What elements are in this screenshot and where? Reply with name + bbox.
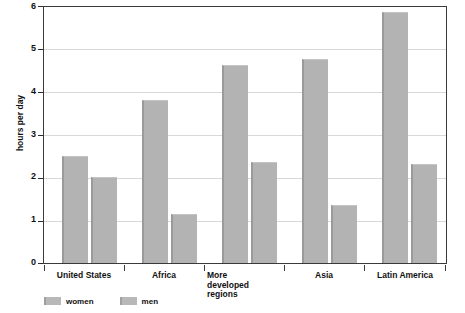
legend: women men bbox=[44, 295, 158, 307]
y-tick-label-4: 4 bbox=[22, 87, 36, 96]
y-tick-label-2: 2 bbox=[22, 172, 36, 181]
x-axis-label-asia: Asia bbox=[284, 271, 364, 281]
legend-item-women: women bbox=[44, 297, 94, 306]
y-axis-tick-labels: 6 5 4 3 2 1 0 bbox=[16, 0, 36, 313]
x-axis-label-latin-america: Latin America bbox=[364, 271, 446, 281]
bar-women-africa bbox=[142, 100, 168, 263]
legend-label-women: women bbox=[66, 297, 94, 306]
bar-men-more-developed-regions bbox=[251, 162, 277, 263]
x-axis-label-more-developed-regions: More developed regions bbox=[207, 271, 287, 300]
bar-women-asia bbox=[302, 59, 328, 263]
bar-men-asia bbox=[331, 205, 357, 263]
legend-swatch-women-icon bbox=[44, 297, 61, 305]
plot-area bbox=[43, 6, 447, 264]
bar-men-united-states bbox=[91, 177, 117, 263]
y-tick-label-6: 6 bbox=[22, 2, 36, 11]
x-axis-label-africa: Africa bbox=[124, 271, 204, 281]
bar-men-latin-america bbox=[411, 164, 437, 263]
bar-women-united-states bbox=[62, 156, 88, 263]
legend-swatch-men-icon bbox=[120, 297, 137, 305]
legend-item-men: men bbox=[120, 297, 158, 306]
x-axis-label-united-states: United States bbox=[44, 271, 124, 281]
y-tick-label-0: 0 bbox=[22, 258, 36, 267]
y-tick-label-1: 1 bbox=[22, 215, 36, 224]
bar-men-africa bbox=[171, 214, 197, 263]
y-tick-label-3: 3 bbox=[22, 130, 36, 139]
bar-women-latin-america bbox=[382, 12, 408, 263]
bar-women-more-developed-regions bbox=[222, 65, 248, 263]
y-tick-label-5: 5 bbox=[22, 44, 36, 53]
x-tick-mark-2 bbox=[204, 265, 205, 271]
bar-chart: hours per day 6 5 4 3 2 1 0 bbox=[0, 0, 465, 313]
legend-label-men: men bbox=[142, 297, 158, 306]
